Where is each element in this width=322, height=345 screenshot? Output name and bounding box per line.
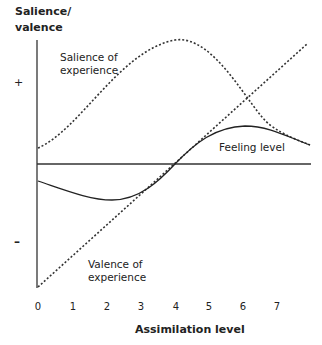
valence-curve [38,44,307,287]
x-axis-title: Assimilation level [135,323,245,337]
assimilation-diagram: Salience/ valence + – Salience of experi… [0,0,322,345]
x-tick-3: 3 [134,301,148,312]
x-tick-2: 2 [100,301,114,312]
feeling-curve [38,126,310,200]
x-tick-5: 5 [202,301,216,312]
x-tick-1: 1 [66,301,80,312]
x-tick-4: 4 [169,301,183,312]
plot-area [0,0,322,345]
x-tick-0: 0 [31,301,45,312]
x-tick-6: 6 [236,301,250,312]
x-tick-7: 7 [270,301,284,312]
salience-curve [38,40,310,148]
